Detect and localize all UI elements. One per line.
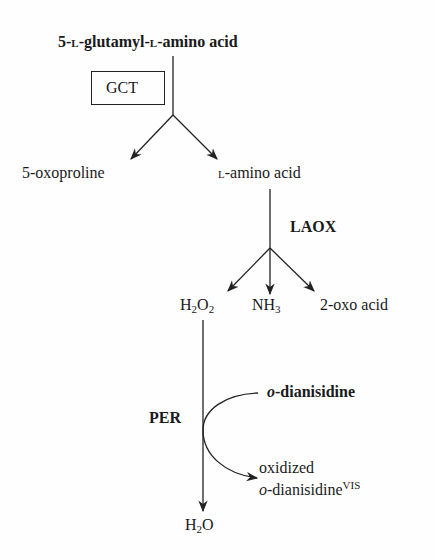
oxoproline-label: 5-oxoproline bbox=[22, 165, 105, 181]
amino-acid-label: L-amino acid bbox=[218, 165, 301, 181]
reaction-scheme: 5-L-glutamyl-L-amino acid GCT 5-oxoproli… bbox=[0, 0, 435, 560]
gct-label: GCT bbox=[106, 80, 138, 96]
dianisidine-label: o-dianisidine bbox=[267, 384, 355, 400]
laox-label: LAOX bbox=[290, 219, 336, 235]
arrows-layer bbox=[0, 0, 435, 560]
oxo-acid-label: 2-oxo acid bbox=[320, 297, 388, 313]
oxidized-dianisidine-label: o-dianisidineVIS bbox=[259, 480, 360, 498]
substrate-label: 5-L-glutamyl-L-amino acid bbox=[58, 34, 238, 50]
water-label: H2O bbox=[185, 517, 214, 535]
oxidized-label: oxidized bbox=[259, 460, 314, 476]
nh3-label: NH3 bbox=[252, 297, 281, 315]
per-label: PER bbox=[149, 410, 181, 426]
h2o2-label: H2O2 bbox=[180, 297, 214, 315]
